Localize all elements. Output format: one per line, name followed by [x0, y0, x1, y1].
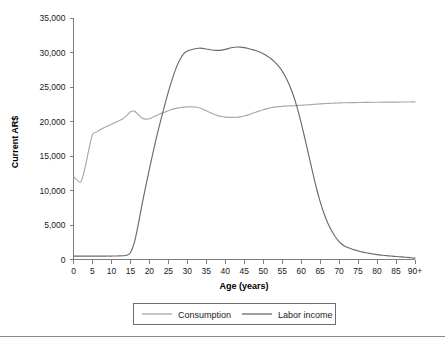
- x-tick-label: 60: [296, 266, 306, 276]
- y-tick-label: 15,000: [40, 151, 66, 161]
- x-tick-label: 70: [334, 266, 344, 276]
- x-tick-label: 0: [71, 266, 76, 276]
- y-tick-label: 5,000: [44, 220, 66, 230]
- x-tick-label: 45: [240, 266, 250, 276]
- x-tick-label: 40: [221, 266, 231, 276]
- chart-background: [0, 0, 445, 343]
- legend-label-labor-income: Labor income: [278, 310, 333, 320]
- y-axis-title: Current AR$: [10, 116, 20, 169]
- x-tick-label: 75: [353, 266, 363, 276]
- y-tick-label: 20,000: [40, 117, 66, 127]
- x-tick-label: 25: [164, 266, 174, 276]
- x-tick-label: 35: [202, 266, 212, 276]
- legend-label-consumption: Consumption: [178, 310, 231, 320]
- x-tick-label: 90+: [408, 266, 422, 276]
- x-axis-title: Age (years): [219, 281, 268, 291]
- x-tick-label: 5: [90, 266, 95, 276]
- y-tick-label: 0: [61, 255, 66, 265]
- x-tick-label: 65: [315, 266, 325, 276]
- y-tick-label: 10,000: [40, 186, 66, 196]
- x-tick-label: 30: [183, 266, 193, 276]
- x-tick-label: 55: [277, 266, 287, 276]
- x-tick-label: 20: [145, 266, 155, 276]
- y-tick-label: 25,000: [40, 82, 66, 92]
- age-profile-line-chart: Current AR$ 05,00010,00015,00020,00025,0…: [0, 0, 445, 343]
- x-tick-label: 85: [391, 266, 401, 276]
- x-tick-label: 10: [107, 266, 117, 276]
- y-tick-label: 35,000: [40, 13, 66, 23]
- x-tick-label: 50: [258, 266, 268, 276]
- y-tick-label: 30,000: [40, 48, 66, 58]
- x-tick-label: 80: [372, 266, 382, 276]
- chart-legend: Consumption Labor income: [134, 304, 336, 325]
- x-tick-label: 15: [126, 266, 136, 276]
- chart-figure: Current AR$ 05,00010,00015,00020,00025,0…: [0, 0, 445, 343]
